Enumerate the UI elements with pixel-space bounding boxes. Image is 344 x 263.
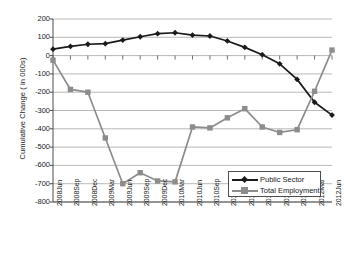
data-point <box>50 46 56 52</box>
data-point <box>68 87 73 92</box>
x-tick-label: 2009Jun <box>126 180 133 206</box>
chart-legend: Public SectorTotal Employment <box>228 171 321 197</box>
data-point <box>85 41 91 47</box>
data-point <box>224 38 230 44</box>
x-tick-label: 2010Jun <box>196 180 203 206</box>
x-tick-label: 2009Mar <box>108 179 115 206</box>
data-point <box>172 179 177 184</box>
legend-key-icon <box>232 185 258 196</box>
data-point <box>207 125 212 130</box>
data-point <box>137 34 143 40</box>
data-point <box>277 130 282 135</box>
x-tick-label: 2010Mar <box>178 179 185 206</box>
line-chart: Cumulative Change ( in 000s) 2001000-100… <box>0 0 344 263</box>
legend-marker-square-icon <box>241 187 248 194</box>
data-point <box>172 30 178 36</box>
legend-item-1: Public Sector <box>232 174 316 185</box>
plot-area <box>0 0 344 263</box>
data-point <box>155 178 160 183</box>
data-point <box>329 47 334 52</box>
x-tick-label: 2010Sep <box>213 179 220 206</box>
data-point <box>102 41 108 47</box>
data-point <box>103 135 108 140</box>
x-tick-label: 2012Jun <box>335 180 342 206</box>
x-tick-label: 2009Sep <box>143 179 150 206</box>
data-point <box>85 90 90 95</box>
data-point <box>120 37 126 43</box>
x-tick-label: 2008Jun <box>56 180 63 206</box>
data-point <box>259 52 265 58</box>
legend-label: Total Employment <box>258 186 320 195</box>
data-point <box>260 124 265 129</box>
data-point <box>207 33 213 39</box>
legend-key-icon <box>232 174 258 185</box>
legend-label: Public Sector <box>258 175 304 184</box>
data-point <box>137 170 142 175</box>
data-point <box>155 31 161 37</box>
data-point <box>225 115 230 120</box>
data-point <box>120 181 125 186</box>
data-point <box>242 106 247 111</box>
data-point <box>242 44 248 50</box>
data-point <box>312 89 317 94</box>
data-point <box>294 127 299 132</box>
series-line-2 <box>53 50 332 184</box>
x-tick-label: 2009Dec <box>161 179 168 206</box>
data-point <box>190 124 195 129</box>
x-tick-label: 2008Sep <box>73 179 80 206</box>
data-point <box>50 57 55 62</box>
data-point <box>68 44 74 50</box>
x-tick-label: 2008Dec <box>91 179 98 206</box>
legend-item-2: Total Employment <box>232 185 316 196</box>
legend-marker-diamond-icon <box>241 176 248 183</box>
